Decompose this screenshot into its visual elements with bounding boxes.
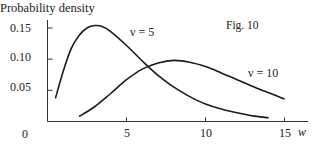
y-axis-ticks (48, 28, 53, 90)
x-axis-title: w (298, 126, 306, 138)
curve-nu-5 (55, 25, 268, 117)
x-tick-label-10: 10 (200, 127, 212, 139)
figure-label: Fig. 10 (226, 20, 259, 32)
annotation-nu-5: ν = 5 (130, 26, 154, 38)
annotation-nu-10: ν = 10 (248, 67, 278, 79)
x-tick-label-15: 15 (279, 127, 291, 139)
origin-label: 0 (22, 128, 28, 140)
x-tick-label-5: 5 (124, 127, 130, 139)
y-tick-label-0.05: 0.05 (10, 81, 31, 93)
y-tick-label-0.15: 0.15 (10, 22, 31, 34)
x-axis-ticks (127, 118, 285, 122)
y-tick-label-0.10: 0.10 (10, 51, 31, 63)
y-axis-title: Probability density (0, 2, 95, 15)
